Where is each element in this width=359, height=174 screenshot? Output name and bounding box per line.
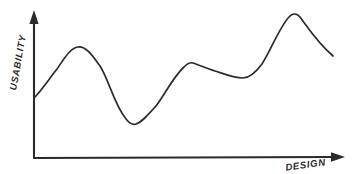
arrow-right-icon: [331, 152, 345, 162]
y-axis-label: USABILITY: [7, 33, 28, 91]
usability-curve-line: [35, 14, 333, 124]
usability-design-sketch-chart: USABILITY DESIGN: [0, 0, 359, 174]
x-axis-line: [34, 157, 334, 158]
chart-canvas: USABILITY DESIGN: [0, 0, 359, 174]
x-axis-label: DESIGN: [285, 156, 327, 173]
arrow-up-icon: [29, 10, 38, 24]
